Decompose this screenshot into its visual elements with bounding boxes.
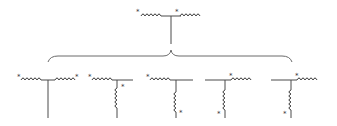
polarity-mark: *: [121, 83, 125, 91]
coil-icon: [150, 78, 170, 80]
polarity-mark: *: [179, 109, 183, 117]
coil-icon: [141, 14, 161, 16]
sub-circuit-2: * *: [88, 73, 133, 118]
coil-icon: [21, 78, 41, 80]
polarity-mark: *: [136, 8, 140, 16]
coil-icon: [174, 92, 176, 112]
polarity-mark: *: [217, 110, 221, 118]
polarity-mark: *: [175, 8, 179, 16]
coil-icon: [231, 78, 251, 80]
sub-circuit-1: * *: [17, 73, 79, 118]
sub-circuit-5: * *: [271, 72, 317, 118]
grouping-brace: [48, 50, 292, 62]
polarity-mark: *: [146, 73, 150, 81]
polarity-mark: *: [229, 72, 233, 80]
coil-icon: [55, 78, 75, 80]
sub-circuit-4: * *: [205, 72, 251, 118]
polarity-mark: *: [88, 73, 92, 81]
coil-icon: [223, 90, 225, 110]
polarity-mark: *: [17, 73, 21, 81]
coil-icon: [92, 78, 112, 80]
coil-icon: [115, 88, 117, 108]
sub-circuit-3: * *: [146, 73, 193, 118]
top-circuit: * *: [136, 8, 200, 44]
coil-icon: [289, 90, 291, 110]
diagram-canvas: * * * * * * *: [0, 0, 337, 126]
inductor-configuration-diagram: * * * * * * *: [0, 0, 337, 126]
coil-icon: [297, 78, 317, 80]
polarity-mark: *: [75, 73, 79, 81]
polarity-mark: *: [283, 110, 287, 118]
coil-icon: [180, 14, 200, 16]
polarity-mark: *: [295, 72, 299, 80]
